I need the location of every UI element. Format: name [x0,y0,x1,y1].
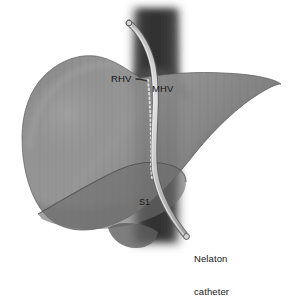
label-nelaton-line2: catheter [194,286,229,297]
label-s1: S1 [139,197,150,208]
catheter-tip-upper [126,20,132,26]
label-rhv: RHV [111,73,131,84]
label-nelaton-catheter: Nelaton catheter [194,231,229,299]
label-nelaton-line1: Nelaton [194,253,229,264]
catheter-tip-lower [184,234,190,240]
label-mhv: MHV [152,83,173,94]
